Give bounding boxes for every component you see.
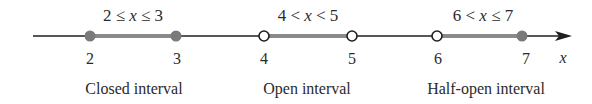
closed-endpoint-3 [171,31,182,42]
open-endpoint-4 [259,31,269,41]
tick-label-5: 5 [348,51,356,67]
inequality-half-open: 6 < x ≤ 7 [453,7,513,24]
closed-endpoint-2 [85,31,96,42]
open-endpoint-6 [432,31,442,41]
closed-endpoint-7 [517,31,528,42]
number-line-diagram: 2 ≤ x ≤ 3 4 < x < 5 6 < x ≤ 7 2 3 4 5 6 … [0,0,592,104]
inequality-right: ≤ 7 [487,6,513,25]
inequality-open: 4 < x < 5 [278,7,339,24]
tick-label-4: 4 [260,51,268,67]
inequality-left: 2 ≤ [103,6,129,25]
tick-label-3: 3 [173,51,181,67]
caption-open-interval: Open interval [263,81,351,97]
open-endpoint-5 [347,31,357,41]
inequality-right: ≤ 3 [137,6,163,25]
inequality-left: 4 < [278,6,305,25]
inequality-left: 6 < [453,6,480,25]
inequality-closed: 2 ≤ x ≤ 3 [103,7,163,24]
caption-half-open-interval: Half-open interval [427,81,545,97]
tick-label-2: 2 [86,51,94,67]
inequality-variable: x [129,6,137,25]
inequality-right: < 5 [312,6,339,25]
tick-label-6: 6 [434,51,442,67]
tick-label-7: 7 [522,51,530,67]
axis-variable-label: x [559,50,566,66]
caption-closed-interval: Closed interval [85,81,182,97]
